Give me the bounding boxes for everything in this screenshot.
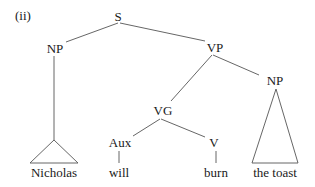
node-vp: VP	[207, 40, 224, 55]
leaf-will: will	[109, 165, 130, 180]
leaf-burn: burn	[204, 165, 228, 180]
example-label: (ii)	[15, 8, 31, 23]
triangle-np-subject	[30, 140, 78, 163]
edge-vp-np	[213, 55, 259, 75]
node-v: V	[209, 135, 219, 150]
node-np-subject: NP	[47, 41, 64, 56]
edge-s-np	[66, 23, 118, 42]
node-vg: VG	[154, 103, 173, 118]
node-s: S	[114, 9, 121, 24]
edge-vp-vg	[171, 55, 212, 101]
triangle-np-object	[252, 89, 298, 163]
edge-s-vp	[120, 23, 205, 41]
leaf-nicholas: Nicholas	[31, 165, 77, 180]
edge-vg-v	[161, 119, 205, 137]
node-np-object: NP	[267, 73, 284, 88]
node-aux: Aux	[109, 135, 132, 150]
leaf-the-toast: the toast	[253, 165, 297, 180]
syntax-tree-diagram: (ii) S NP VP NP VG Aux V Nicholas will b…	[0, 0, 315, 187]
edge-vg-aux	[133, 119, 160, 136]
